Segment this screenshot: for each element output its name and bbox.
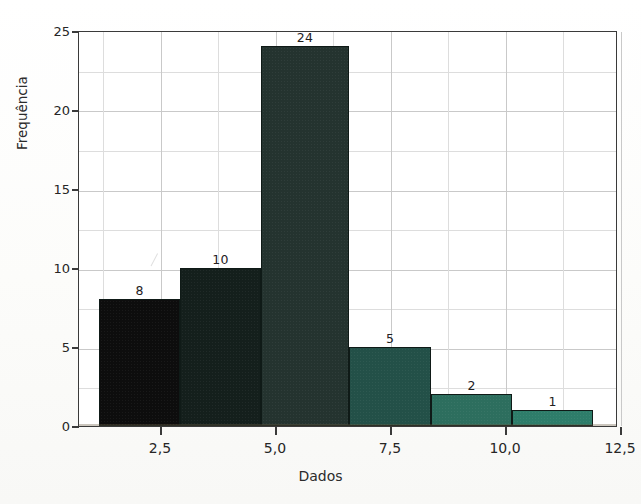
bar-2[interactable] xyxy=(180,268,261,426)
x-tick-mark-7.5 xyxy=(390,427,392,435)
histogram-figure: Frequência 25 20 15 10 5 0 xyxy=(0,0,641,504)
plot-area: 8 10 24 5 2 1 xyxy=(78,31,617,427)
y-tick-label-5: 5 xyxy=(44,340,70,355)
x-tick-mark-12.5 xyxy=(620,427,622,435)
gridline-v-11.25 xyxy=(563,32,564,426)
bar-1[interactable] xyxy=(99,299,180,426)
bar-3[interactable] xyxy=(261,46,349,426)
x-tick-label-7.5: 7,5 xyxy=(360,440,420,456)
x-axis-label: Dados xyxy=(0,468,641,484)
gridline-v-10.0 xyxy=(506,32,507,426)
y-tick-label-20: 20 xyxy=(44,103,70,118)
x-tick-label-10.0: 10,0 xyxy=(475,440,535,456)
x-tick-label-2.5: 2,5 xyxy=(130,440,190,456)
figure-page: Frequência 25 20 15 10 5 0 xyxy=(0,0,641,504)
y-tick-label-25: 25 xyxy=(44,24,70,39)
baseline-shadow xyxy=(79,424,616,426)
bar-label-5: 2 xyxy=(431,378,512,393)
y-tick-label-10: 10 xyxy=(44,261,70,276)
bar-label-3: 24 xyxy=(261,30,349,45)
bar-label-2: 10 xyxy=(180,252,261,267)
bar-label-4: 5 xyxy=(349,331,431,346)
y-tick-label-0: 0 xyxy=(44,419,70,434)
x-tick-mark-5.0 xyxy=(275,427,277,435)
x-tick-mark-2.5 xyxy=(160,427,162,435)
y-axis-label: Frequência xyxy=(14,76,30,150)
y-tick-label-15: 15 xyxy=(44,182,70,197)
gridline-v-8.75 xyxy=(448,32,449,426)
bar-label-6: 1 xyxy=(512,394,593,409)
gridline-v-12.5 xyxy=(621,32,622,426)
x-tick-label-12.5: 12,5 xyxy=(590,440,641,456)
x-tick-mark-10.0 xyxy=(505,427,507,435)
bar-5[interactable] xyxy=(431,394,512,426)
x-tick-label-5.0: 5,0 xyxy=(245,440,305,456)
bar-4[interactable] xyxy=(349,347,431,426)
bar-label-1: 8 xyxy=(99,283,180,298)
